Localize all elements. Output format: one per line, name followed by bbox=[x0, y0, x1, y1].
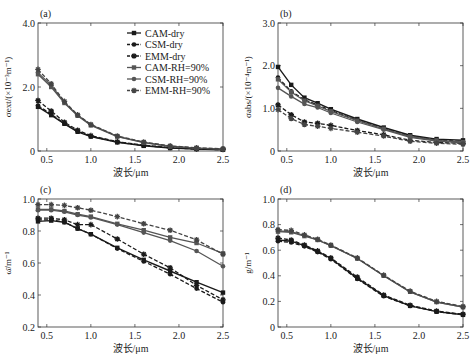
x-tick-label: 2.0 bbox=[173, 154, 186, 165]
data-point bbox=[62, 203, 68, 209]
data-point bbox=[315, 123, 321, 129]
y-axis-label: σabs/(×10⁻⁴m⁻¹) bbox=[243, 56, 253, 118]
data-point bbox=[328, 255, 334, 261]
x-tick-label: 2.5 bbox=[217, 154, 230, 165]
data-point bbox=[288, 116, 294, 122]
data-point bbox=[289, 83, 293, 87]
legend-item: EMM-dry bbox=[127, 51, 186, 62]
data-point bbox=[354, 129, 360, 135]
y-tick-label: 1.0 bbox=[23, 194, 36, 205]
series-emm-dry bbox=[35, 98, 226, 153]
data-point bbox=[194, 237, 200, 243]
data-point bbox=[275, 235, 281, 241]
data-point bbox=[315, 237, 321, 243]
data-point bbox=[289, 94, 294, 99]
panel-label: (b) bbox=[280, 8, 292, 20]
data-point bbox=[288, 237, 294, 243]
legend-marker bbox=[132, 42, 137, 47]
data-point bbox=[114, 133, 120, 139]
x-tick-label: 2.0 bbox=[413, 330, 426, 341]
data-point bbox=[302, 242, 308, 248]
data-point bbox=[276, 77, 280, 81]
legend-label: CSM-RH=90% bbox=[145, 74, 207, 85]
x-tick-label: 1.0 bbox=[325, 330, 338, 341]
y-tick-label: 4.0 bbox=[23, 18, 36, 29]
y-tick-label: 0.4 bbox=[23, 290, 36, 301]
data-point bbox=[302, 232, 308, 238]
x-tick-label: 1.5 bbox=[129, 154, 142, 165]
data-point bbox=[302, 102, 307, 107]
x-tick-label: 2.0 bbox=[173, 330, 186, 341]
x-tick-label: 1.0 bbox=[325, 154, 338, 165]
x-tick-label: 0.5 bbox=[281, 154, 294, 165]
data-point bbox=[88, 207, 94, 213]
y-tick-label: 0 bbox=[30, 146, 35, 157]
data-point bbox=[460, 311, 466, 317]
data-point bbox=[220, 297, 226, 303]
data-point bbox=[220, 251, 226, 257]
data-point bbox=[221, 264, 226, 269]
data-point bbox=[114, 236, 120, 242]
legend-marker bbox=[131, 88, 137, 94]
legend-label: CAM-dry bbox=[145, 28, 184, 39]
data-point bbox=[75, 205, 81, 211]
data-point bbox=[48, 215, 54, 221]
data-point bbox=[35, 215, 41, 221]
data-point bbox=[220, 146, 226, 152]
figure: 0.51.01.52.02.502.04.0(a)波长/μmσext/(×10⁻… bbox=[0, 0, 475, 358]
data-point bbox=[48, 108, 54, 114]
series-cam-dry bbox=[36, 105, 225, 152]
data-point bbox=[460, 304, 466, 310]
data-point bbox=[88, 122, 94, 128]
y-tick-label: 2.0 bbox=[263, 60, 276, 71]
data-point bbox=[88, 222, 94, 228]
data-point bbox=[434, 141, 440, 147]
data-point bbox=[89, 232, 94, 237]
data-point bbox=[194, 283, 200, 289]
data-point bbox=[115, 246, 120, 251]
data-point bbox=[221, 290, 225, 294]
data-point bbox=[194, 249, 199, 254]
series-csm-dry bbox=[36, 218, 226, 305]
x-tick-label: 1.5 bbox=[129, 330, 142, 341]
x-tick-label: 2.5 bbox=[457, 330, 470, 341]
y-tick-label: 0.2 bbox=[23, 322, 36, 333]
data-point bbox=[381, 272, 387, 278]
series-csm-rh-90- bbox=[276, 86, 466, 146]
y-axis-label: ω̄/m⁻¹ bbox=[3, 251, 13, 274]
panel-c: 0.51.01.52.02.50.20.40.60.81.0(c)波长/μmω̄… bbox=[3, 184, 229, 354]
data-point bbox=[354, 274, 360, 280]
data-point bbox=[276, 65, 280, 69]
legend-marker bbox=[132, 31, 136, 35]
data-point bbox=[36, 208, 41, 213]
data-point bbox=[114, 214, 120, 220]
data-point bbox=[62, 99, 68, 105]
data-point bbox=[407, 138, 413, 144]
data-point bbox=[35, 67, 41, 73]
data-point bbox=[115, 222, 120, 227]
x-tick-label: 1.0 bbox=[85, 154, 98, 165]
y-tick-label: 1.0 bbox=[263, 194, 276, 205]
legend: CAM-dryCSM-dryEMM-dryCAM-RH=90%CSM-RH=90… bbox=[127, 28, 210, 97]
y-axis-label: g/m⁻¹ bbox=[243, 252, 253, 274]
data-point bbox=[167, 265, 173, 271]
x-tick-label: 1.5 bbox=[369, 154, 382, 165]
x-axis-label: 波长/μm bbox=[113, 166, 149, 178]
data-point bbox=[88, 133, 94, 139]
y-tick-label: 2.0 bbox=[23, 82, 36, 93]
y-tick-label: 0 bbox=[270, 322, 275, 333]
x-tick-label: 2.5 bbox=[217, 330, 230, 341]
legend-item: CAM-RH=90% bbox=[127, 62, 209, 73]
data-point bbox=[75, 127, 81, 133]
x-tick-label: 0.5 bbox=[41, 330, 54, 341]
data-point bbox=[141, 230, 146, 235]
panel-label: (d) bbox=[280, 184, 292, 196]
data-point bbox=[328, 126, 334, 132]
data-point bbox=[35, 98, 41, 104]
y-tick-label: 0.6 bbox=[263, 245, 276, 256]
data-point bbox=[407, 288, 413, 294]
data-point bbox=[288, 228, 294, 234]
x-tick-label: 0.5 bbox=[41, 154, 54, 165]
data-point bbox=[381, 292, 387, 298]
data-point bbox=[75, 112, 81, 118]
